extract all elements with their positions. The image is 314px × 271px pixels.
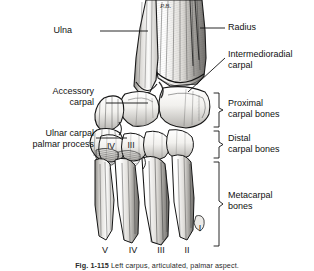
- figure-caption-number: Fig. 1-115: [75, 261, 109, 270]
- radius-bone: [153, 0, 206, 86]
- label-ulnar-carpal-palmar-process: Ulnar carpal palmar process: [6, 128, 94, 149]
- label-ulna: Ulna: [17, 25, 72, 36]
- numeral-metacarpal-iii: III: [154, 245, 168, 255]
- label-proximal-carpal-bones: Proximal carpal bones: [228, 98, 312, 119]
- accessory-carpal-bone: [95, 96, 124, 131]
- artist-signature: P.B.: [160, 2, 171, 10]
- numeral-metacarpal-ii: II: [181, 245, 193, 255]
- bracket-distal-carpal-bones: [214, 131, 223, 158]
- ulnar-carpal-bone: [120, 91, 159, 126]
- bracket-proximal-carpal-bones: [214, 93, 223, 127]
- brackets: [214, 93, 223, 246]
- label-accessory-carpal: Accessory carpal: [17, 86, 94, 107]
- label-intermedioradial-carpal: Intermedioradial carpal: [228, 49, 314, 70]
- numeral-metacarpal-i: I: [196, 223, 204, 233]
- label-metacarpal-bones: Metacarpal bones: [228, 190, 312, 211]
- numeral-metacarpal-v: V: [98, 245, 112, 255]
- numeral-metacarpal-iv: IV: [126, 245, 140, 255]
- label-radius: Radius: [228, 22, 312, 33]
- numeral-distal-carpal-iii: III: [125, 140, 137, 150]
- metacarpal-bones: [95, 155, 204, 245]
- bracket-metacarpal-bones: [214, 162, 223, 246]
- figure-caption-text: Left carpus, articulated, palmar aspect.: [111, 261, 239, 270]
- ulna-bone: [134, 0, 158, 94]
- figure-caption: Fig. 1-115 Left carpus, articulated, pal…: [0, 261, 314, 270]
- bone-group: [90, 0, 210, 245]
- intermedioradial-carpal-bone: [159, 87, 210, 128]
- numeral-distal-carpal-iv: IV: [104, 141, 118, 151]
- label-distal-carpal-bones: Distal carpal bones: [228, 133, 312, 154]
- figure-panel: P.B. Ulna Accessory carpal Ulnar carpal …: [0, 0, 314, 271]
